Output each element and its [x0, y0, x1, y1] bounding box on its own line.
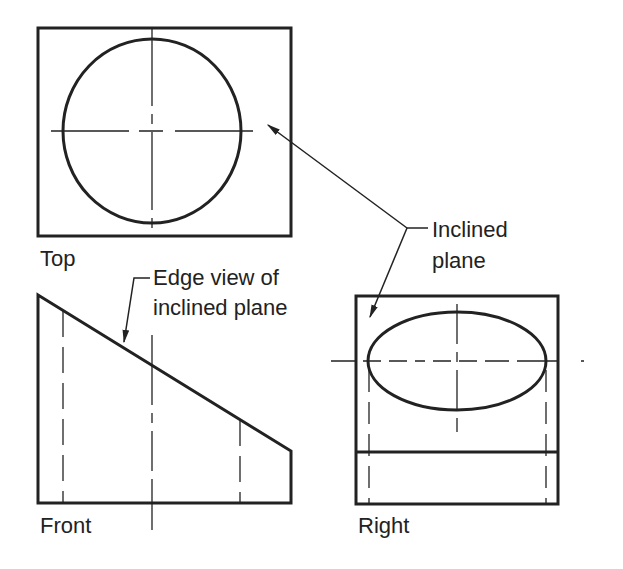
- inclined-plane-label-line2: plane: [432, 248, 486, 273]
- orthographic-drawing: Top Front Right Edge view of inclined pl…: [0, 0, 623, 569]
- top-view-outline: [38, 28, 291, 236]
- front-view-outline: [38, 295, 291, 503]
- edge-view-label-line1: Edge view of: [153, 265, 280, 290]
- inclined-plane-leader-arrow-top-icon: [268, 125, 407, 228]
- inclined-plane-annotation: Inclined plane: [268, 125, 508, 317]
- inclined-plane-label-line1: Inclined: [432, 217, 508, 242]
- front-view: Front: [38, 295, 291, 538]
- inclined-plane-leader-arrow-right-icon: [370, 228, 407, 317]
- front-view-label: Front: [40, 513, 91, 538]
- top-view: Top: [38, 28, 291, 271]
- right-view: Right: [331, 296, 584, 538]
- right-view-label: Right: [358, 513, 409, 538]
- edge-view-leader-arrow-icon: [124, 278, 150, 342]
- top-view-label: Top: [40, 246, 75, 271]
- edge-view-annotation: Edge view of inclined plane: [124, 265, 288, 342]
- edge-view-label-line2: inclined plane: [153, 295, 288, 320]
